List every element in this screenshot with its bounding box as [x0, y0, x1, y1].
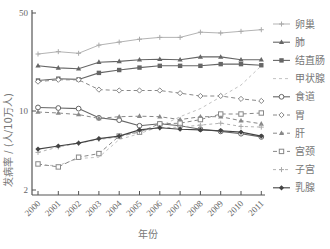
legend-label: 食道 — [295, 90, 315, 102]
legend-item: 乳腺 — [273, 181, 315, 193]
x-tick-label: 2007 — [165, 198, 185, 218]
legend-label: 宫颈 — [295, 145, 315, 157]
series-line — [36, 62, 264, 83]
x-tick-label: 2004 — [104, 198, 124, 218]
series-line — [35, 54, 264, 70]
legend-item: 胃 — [273, 110, 305, 121]
chart-canvas: 2105020002001200220032004200520062007200… — [0, 0, 330, 249]
y-tick-label: 10 — [19, 106, 29, 116]
series-line — [36, 105, 264, 139]
x-tick-label: 2008 — [185, 198, 205, 218]
series-line — [35, 109, 264, 125]
y-axis-title: 发病率 / (人/10万人) — [2, 93, 14, 187]
line-chart: 2105020002001200220032004200520062007200… — [0, 0, 330, 249]
series-line — [36, 121, 264, 155]
legend-item: 卵巢 — [273, 18, 315, 30]
x-tick-label: 2002 — [63, 198, 83, 218]
legend-label: 胃 — [295, 110, 305, 121]
x-tick-label: 2011 — [246, 198, 266, 218]
y-tick-label: 2 — [24, 185, 29, 195]
x-tick-label: 2005 — [124, 198, 144, 218]
x-tick-label: 2001 — [43, 198, 63, 218]
legend-item: 结直肠 — [273, 54, 325, 66]
legend: 卵巢肺结直肠甲状腺食道胃肝宫颈子宫乳腺 — [273, 18, 325, 194]
legend-label: 卵巢 — [295, 18, 315, 30]
series-line — [35, 77, 264, 103]
legend-item: 宫颈 — [273, 145, 315, 157]
legend-item: 肺 — [273, 37, 305, 48]
legend-item: 食道 — [273, 90, 315, 102]
series-line — [36, 27, 264, 56]
x-tick-label: 2010 — [226, 198, 246, 218]
legend-label: 子宫 — [295, 163, 315, 175]
x-tick-label: 2006 — [144, 198, 164, 218]
series-group — [35, 27, 264, 169]
y-tick-label: 50 — [19, 8, 29, 18]
x-tick-label: 2003 — [84, 198, 104, 218]
legend-label: 甲状腺 — [295, 72, 325, 84]
legend-item: 甲状腺 — [273, 72, 325, 84]
legend-label: 肝 — [295, 128, 305, 139]
legend-label: 结直肠 — [295, 54, 325, 66]
x-tick-label: 2000 — [23, 198, 43, 218]
legend-label: 肺 — [295, 37, 305, 48]
series-line — [36, 111, 264, 169]
legend-item: 子宫 — [273, 163, 315, 175]
legend-item: 肝 — [273, 128, 305, 139]
legend-label: 乳腺 — [295, 181, 315, 193]
x-axis-title: 年份 — [138, 228, 158, 240]
x-tick-label: 2009 — [205, 198, 225, 218]
series-line — [35, 125, 264, 152]
series-line — [38, 66, 261, 166]
